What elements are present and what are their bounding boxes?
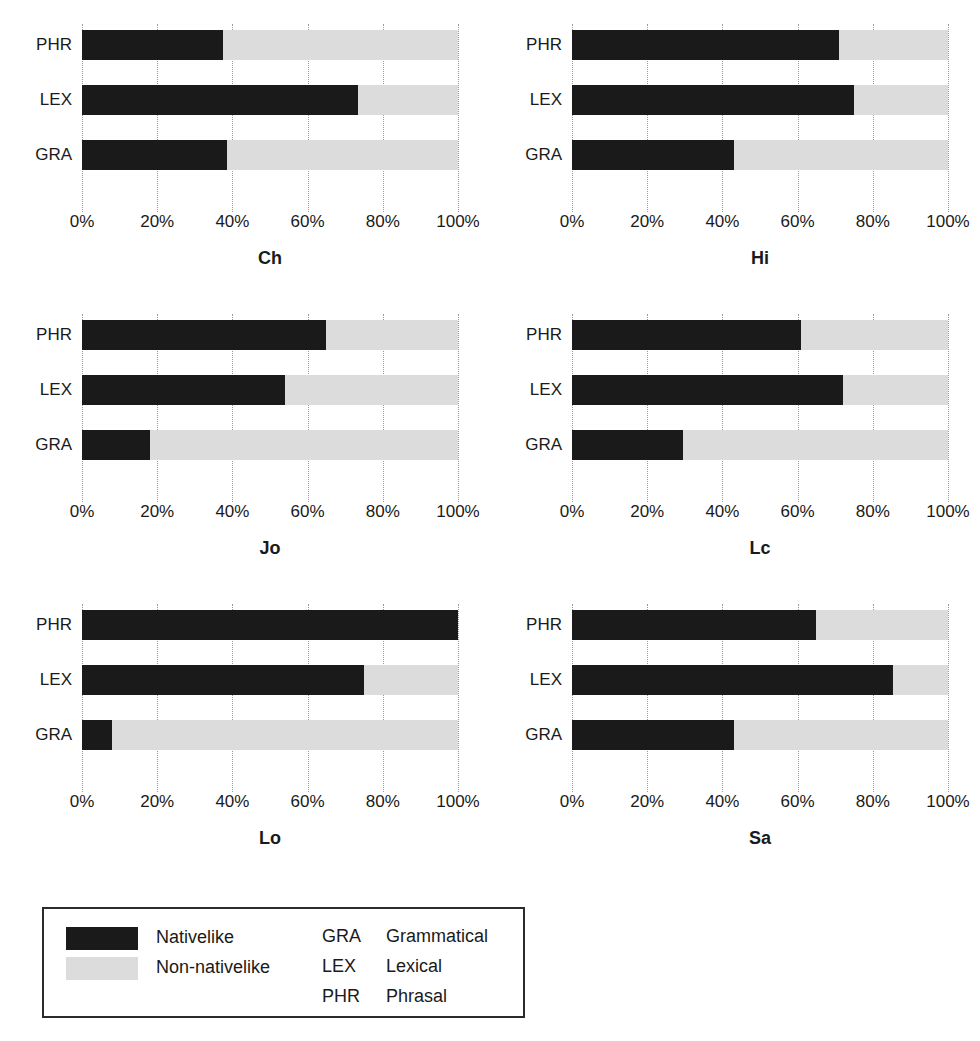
bar-row-phr	[82, 30, 458, 60]
gridline-100	[948, 24, 949, 212]
xtick-label-0: 0%	[560, 502, 585, 522]
panel-grid: PHRLEXGRA0%20%40%60%80%100%ChPHRLEXGRA0%…	[0, 0, 980, 890]
xtick-label-0: 0%	[560, 792, 585, 812]
xtick-label-80: 80%	[366, 502, 400, 522]
legend-swatch-nativelike	[66, 927, 138, 950]
category-label-lex: LEX	[530, 665, 562, 695]
value-axis: 0%20%40%60%80%100%	[572, 212, 948, 242]
xtick-label-80: 80%	[366, 212, 400, 232]
bar-segment-nativelike	[82, 320, 326, 350]
xtick-label-100: 100%	[436, 212, 479, 232]
chart-panel-hi: PHRLEXGRA0%20%40%60%80%100%Hi	[490, 0, 980, 290]
plot-area	[82, 314, 458, 502]
panel-title-ch: Ch	[82, 248, 458, 269]
value-axis: 0%20%40%60%80%100%	[572, 502, 948, 532]
xtick-label-40: 40%	[705, 212, 739, 232]
bar-segment-nativelike	[572, 140, 734, 170]
category-label-phr: PHR	[526, 320, 562, 350]
category-label-phr: PHR	[36, 30, 72, 60]
bar-row-lex	[82, 665, 458, 695]
legend-abbr-code-gra: GRA	[322, 926, 361, 947]
bar-row-gra	[82, 430, 458, 460]
category-label-lex: LEX	[530, 375, 562, 405]
category-label-lex: LEX	[40, 665, 72, 695]
plot-area	[572, 314, 948, 502]
bar-segment-nativelike	[572, 430, 683, 460]
legend-label-non-nativelike: Non-nativelike	[156, 957, 270, 978]
bar-segment-nativelike	[82, 30, 223, 60]
legend-inner: Nativelike Non-nativelike GRA Grammatica…	[44, 909, 523, 1016]
chart-panel-lc: PHRLEXGRA0%20%40%60%80%100%Lc	[490, 290, 980, 580]
xtick-label-40: 40%	[705, 502, 739, 522]
legend-abbr-full-phr: Phrasal	[386, 986, 447, 1007]
category-label-gra: GRA	[35, 140, 72, 170]
xtick-label-40: 40%	[215, 212, 249, 232]
plot-area	[572, 24, 948, 212]
panel-title-hi: Hi	[572, 248, 948, 269]
bar-row-phr	[82, 320, 458, 350]
xtick-label-60: 60%	[291, 502, 325, 522]
xtick-label-80: 80%	[856, 502, 890, 522]
category-label-phr: PHR	[36, 320, 72, 350]
bar-row-lex	[82, 85, 458, 115]
xtick-label-100: 100%	[436, 502, 479, 522]
bar-row-gra	[82, 720, 458, 750]
legend-swatch-non-nativelike	[66, 957, 138, 980]
legend-abbr-code-phr: PHR	[322, 986, 360, 1007]
legend-label-nativelike: Nativelike	[156, 927, 234, 948]
bar-segment-nativelike	[572, 720, 734, 750]
category-axis: PHRLEXGRA	[0, 604, 72, 792]
xtick-label-40: 40%	[705, 792, 739, 812]
category-label-phr: PHR	[36, 610, 72, 640]
chart-panel-lo: PHRLEXGRA0%20%40%60%80%100%Lo	[0, 580, 490, 870]
chart-panel-sa: PHRLEXGRA0%20%40%60%80%100%Sa	[490, 580, 980, 870]
bar-row-phr	[572, 320, 948, 350]
xtick-label-20: 20%	[630, 212, 664, 232]
bar-segment-nativelike	[572, 610, 816, 640]
category-axis: PHRLEXGRA	[0, 24, 72, 212]
xtick-label-100: 100%	[926, 212, 969, 232]
panel-title-jo: Jo	[82, 538, 458, 559]
category-label-phr: PHR	[526, 30, 562, 60]
bar-segment-nativelike	[572, 320, 801, 350]
xtick-label-100: 100%	[926, 792, 969, 812]
bar-segment-nativelike	[82, 430, 150, 460]
bar-row-lex	[572, 375, 948, 405]
value-axis: 0%20%40%60%80%100%	[572, 792, 948, 822]
legend-abbr-code-lex: LEX	[322, 956, 356, 977]
bar-row-gra	[572, 430, 948, 460]
xtick-label-20: 20%	[630, 502, 664, 522]
category-axis: PHRLEXGRA	[490, 604, 562, 792]
bar-row-phr	[572, 610, 948, 640]
legend-abbr-full-gra: Grammatical	[386, 926, 488, 947]
legend-abbr-full-lex: Lexical	[386, 956, 442, 977]
bar-segment-nativelike	[82, 85, 358, 115]
xtick-label-60: 60%	[291, 792, 325, 812]
gridline-100	[458, 24, 459, 212]
category-label-lex: LEX	[40, 375, 72, 405]
bar-row-lex	[572, 665, 948, 695]
category-label-gra: GRA	[525, 140, 562, 170]
bar-segment-nativelike	[572, 375, 843, 405]
value-axis: 0%20%40%60%80%100%	[82, 502, 458, 532]
bar-segment-nativelike	[82, 610, 458, 640]
bar-row-gra	[572, 140, 948, 170]
xtick-label-20: 20%	[630, 792, 664, 812]
panel-title-lc: Lc	[572, 538, 948, 559]
gridline-100	[458, 604, 459, 792]
bar-row-lex	[82, 375, 458, 405]
xtick-label-20: 20%	[140, 502, 174, 522]
bar-row-lex	[572, 85, 948, 115]
xtick-label-20: 20%	[140, 792, 174, 812]
xtick-label-100: 100%	[436, 792, 479, 812]
category-label-gra: GRA	[525, 720, 562, 750]
gridline-100	[948, 604, 949, 792]
bar-segment-non-nativelike	[82, 720, 458, 750]
xtick-label-80: 80%	[856, 212, 890, 232]
category-label-phr: PHR	[526, 610, 562, 640]
bar-row-gra	[82, 140, 458, 170]
chart-panel-jo: PHRLEXGRA0%20%40%60%80%100%Jo	[0, 290, 490, 580]
xtick-label-60: 60%	[781, 502, 815, 522]
chart-panel-ch: PHRLEXGRA0%20%40%60%80%100%Ch	[0, 0, 490, 290]
bar-row-gra	[572, 720, 948, 750]
